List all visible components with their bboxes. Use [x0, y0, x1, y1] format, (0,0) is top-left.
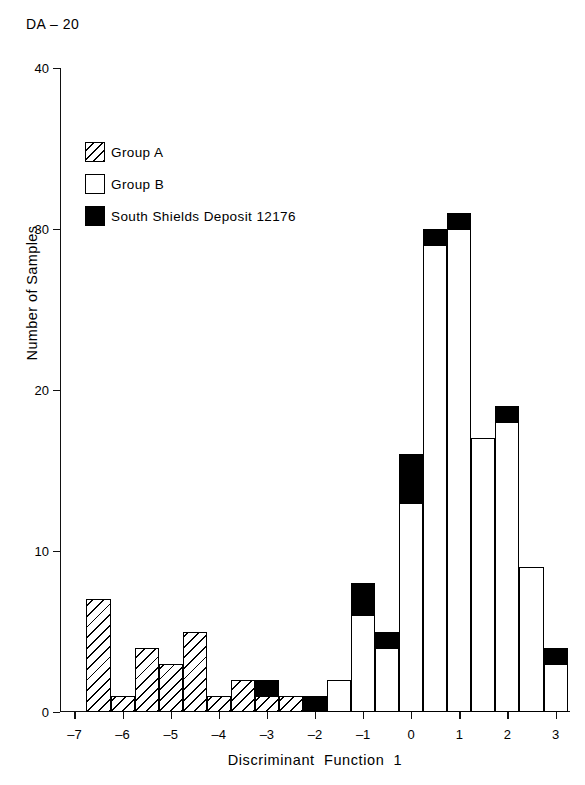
legend-item-label: Group A — [111, 145, 163, 160]
y-tick-mark — [53, 68, 60, 69]
bar — [471, 438, 495, 712]
y-tick-label: 0 — [42, 705, 49, 720]
bar — [375, 632, 399, 713]
y-tick-label: 40 — [35, 61, 49, 76]
bar-segment — [231, 680, 255, 712]
x-tick-mark — [459, 712, 460, 719]
bar-segment — [375, 632, 399, 648]
bar-segment — [519, 567, 543, 712]
bar — [447, 213, 471, 712]
bar-segment — [351, 615, 375, 712]
x-tick-label: –7 — [67, 727, 81, 742]
y-tick-mark — [53, 229, 60, 230]
bar — [255, 680, 279, 712]
x-tick-label: 1 — [456, 727, 463, 742]
legend-item: South Shields Deposit 12176 — [85, 200, 296, 232]
bar-segment — [351, 583, 375, 615]
bar-segment — [86, 599, 110, 712]
x-tick-label: 2 — [504, 727, 511, 742]
x-tick-label: –5 — [163, 727, 177, 742]
y-tick-mark — [53, 712, 60, 713]
x-tick-mark — [315, 712, 316, 719]
bar-segment — [135, 648, 159, 712]
y-tick-mark — [53, 390, 60, 391]
bar-segment — [471, 438, 495, 712]
bar — [303, 696, 327, 712]
legend-swatch-icon — [85, 142, 105, 162]
x-tick-label: –2 — [308, 727, 322, 742]
y-tick-label: 10 — [35, 544, 49, 559]
bar-segment — [447, 229, 471, 712]
bar — [327, 680, 351, 712]
bar — [423, 229, 447, 712]
bar — [495, 406, 519, 712]
x-axis-title: Discriminant Function 1 — [60, 752, 570, 768]
bar-segment — [183, 632, 207, 713]
bar — [544, 648, 568, 712]
x-tick-label: –1 — [356, 727, 370, 742]
bar-segment — [423, 245, 447, 712]
y-axis-title: Number of Samples — [24, 193, 40, 393]
legend-swatch-icon — [85, 206, 105, 226]
legend-swatch-icon — [85, 174, 105, 194]
bar-segment — [207, 696, 231, 712]
bar-segment — [495, 422, 519, 712]
bar — [279, 696, 303, 712]
bar-segment — [544, 648, 568, 664]
y-tick-mark — [53, 551, 60, 552]
x-tick-mark — [363, 712, 364, 719]
legend-item: Group A — [85, 136, 296, 168]
bar — [135, 648, 159, 712]
legend-item: Group B — [85, 168, 296, 200]
legend-item-label: Group B — [111, 177, 164, 192]
bar — [86, 599, 110, 712]
x-tick-label: –6 — [115, 727, 129, 742]
bar-segment — [423, 229, 447, 245]
bar-segment — [159, 664, 183, 712]
y-axis-line — [60, 68, 61, 712]
bar — [231, 680, 255, 712]
bar-segment — [375, 648, 399, 712]
x-tick-mark — [267, 712, 268, 719]
bar — [111, 696, 135, 712]
x-tick-label: –3 — [260, 727, 274, 742]
x-tick-mark — [411, 712, 412, 719]
bar-segment — [327, 680, 351, 712]
bar — [183, 632, 207, 713]
bar — [519, 567, 543, 712]
x-tick-mark — [171, 712, 172, 719]
x-tick-mark — [74, 712, 75, 719]
legend-item-label: South Shields Deposit 12176 — [111, 209, 296, 224]
x-tick-label: 3 — [552, 727, 559, 742]
bar-segment — [447, 213, 471, 229]
bar — [399, 454, 423, 712]
x-tick-mark — [219, 712, 220, 719]
x-tick-mark — [123, 712, 124, 719]
bar-segment — [111, 696, 135, 712]
bar-segment — [399, 503, 423, 712]
chart-legend: Group AGroup BSouth Shields Deposit 1217… — [85, 136, 296, 232]
x-tick-mark — [556, 712, 557, 719]
x-tick-label: –4 — [212, 727, 226, 742]
bar — [207, 696, 231, 712]
bar-segment — [544, 664, 568, 712]
bar-segment — [279, 696, 303, 712]
bar-segment — [255, 696, 279, 712]
bar-segment — [255, 680, 279, 696]
bar — [351, 583, 375, 712]
x-tick-mark — [507, 712, 508, 719]
bar — [159, 664, 183, 712]
bar-segment — [303, 696, 327, 712]
bar-segment — [495, 406, 519, 422]
bar-segment — [399, 454, 423, 502]
figure-id-label: DA – 20 — [26, 16, 79, 32]
x-tick-label: 0 — [408, 727, 415, 742]
